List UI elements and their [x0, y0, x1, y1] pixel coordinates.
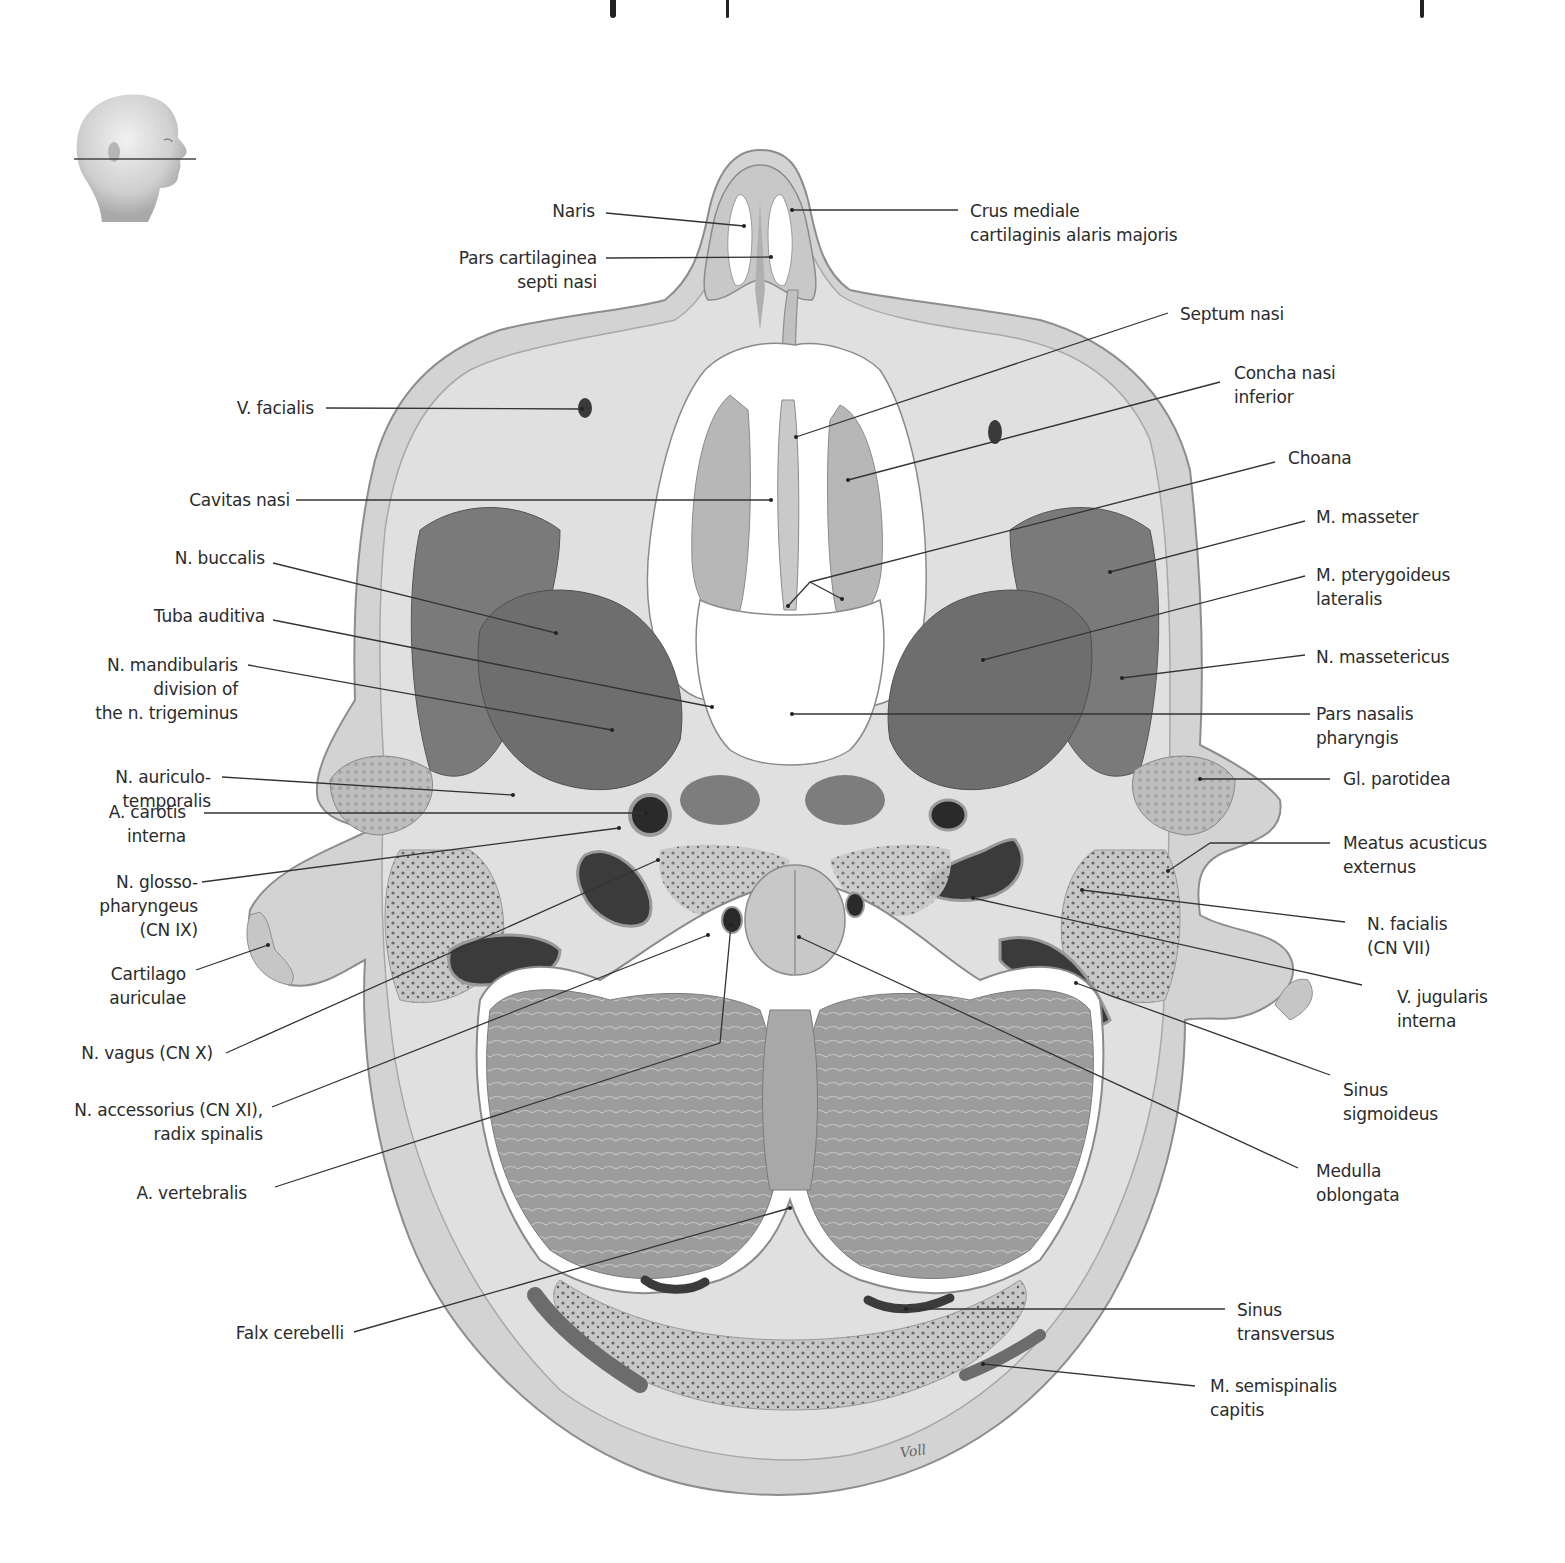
- label-cavitas-nasi: Cavitas nasi: [189, 488, 290, 512]
- label-n-facialis: N. facialis(CN VII): [1367, 912, 1448, 960]
- label-m-semispinalis-capitis: M. semispinaliscapitis: [1210, 1374, 1337, 1422]
- label-a-carotis-interna: A. carotisinterna: [109, 800, 186, 848]
- label-choana: Choana: [1288, 446, 1351, 470]
- anatomy-figure: Naris Pars cartilagineasepti nasi V. fac…: [0, 0, 1565, 1563]
- label-naris: Naris: [552, 199, 595, 223]
- label-gl-parotidea: Gl. parotidea: [1343, 767, 1450, 791]
- label-cartilago-auriculae: Cartilagoauriculae: [109, 962, 186, 1010]
- label-m-pterygoideus-lateralis: M. pterygoideuslateralis: [1316, 563, 1450, 611]
- label-concha-nasi-inferior: Concha nasiinferior: [1234, 361, 1336, 409]
- label-sinus-sigmoideus: Sinussigmoideus: [1343, 1078, 1438, 1126]
- label-medulla-oblongata: Medullaoblongata: [1316, 1159, 1400, 1207]
- label-n-massetericus: N. massetericus: [1316, 645, 1450, 669]
- label-pars-cartilaginea-septi-nasi: Pars cartilagineasepti nasi: [459, 246, 597, 294]
- label-n-mandibularis: N. mandibularisdivision ofthe n. trigemi…: [95, 653, 238, 725]
- label-m-masseter: M. masseter: [1316, 505, 1419, 529]
- label-n-vagus: N. vagus (CN X): [81, 1041, 213, 1065]
- label-sinus-transversus: Sinustransversus: [1237, 1298, 1335, 1346]
- label-n-accessorius: N. accessorius (CN XI),radix spinalis: [74, 1098, 263, 1146]
- label-v-facialis: V. facialis: [237, 396, 314, 420]
- label-a-vertebralis: A. vertebralis: [137, 1181, 247, 1205]
- label-pars-nasalis-pharyngis: Pars nasalispharyngis: [1316, 702, 1414, 750]
- label-tuba-auditiva: Tuba auditiva: [154, 604, 265, 628]
- label-crus-mediale: Crus medialecartilaginis alaris majoris: [970, 199, 1177, 247]
- label-septum-nasi: Septum nasi: [1180, 302, 1284, 326]
- label-n-buccalis: N. buccalis: [175, 546, 265, 570]
- label-v-jugularis-interna: V. jugularisinterna: [1397, 985, 1488, 1033]
- label-n-glossopharyngeus: N. glosso-pharyngeus(CN IX): [99, 870, 198, 942]
- label-falx-cerebelli: Falx cerebelli: [236, 1321, 344, 1345]
- label-meatus-acusticus-externus: Meatus acusticusexternus: [1343, 831, 1487, 879]
